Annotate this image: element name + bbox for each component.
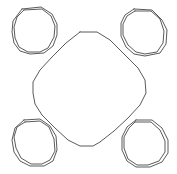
diagram-svg: [0, 0, 177, 174]
diagram-canvas: [0, 0, 177, 174]
top-left-blob: [12, 7, 57, 54]
bottom-left-blob: [12, 119, 57, 166]
top-right-blob-inner-outline: [123, 11, 164, 54]
bottom-right-blob: [122, 120, 168, 167]
bottom-right-blob-inner-outline: [124, 122, 165, 165]
top-right-blob: [121, 9, 167, 56]
top-left-blob-inner-outline: [14, 9, 55, 52]
top-right-blob-outer-outline: [121, 9, 167, 56]
bottom-left-blob-inner-outline: [14, 121, 55, 164]
